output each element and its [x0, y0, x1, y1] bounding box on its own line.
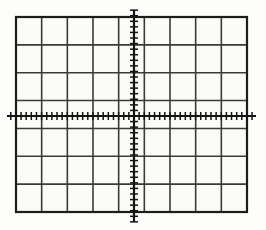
- grid-cell: [221, 184, 247, 212]
- coordinate-grid-canvas: [0, 0, 266, 230]
- grid-cell: [170, 184, 196, 212]
- grid-cell: [170, 73, 196, 101]
- grid-cell: [42, 45, 68, 73]
- grid-cell: [221, 156, 247, 184]
- grid-cell: [16, 128, 42, 156]
- grid-cell: [67, 45, 93, 73]
- grid-cell: [170, 45, 196, 73]
- grid-cell: [170, 101, 196, 129]
- grid-cell: [67, 184, 93, 212]
- grid-cell: [196, 184, 222, 212]
- grid-cell: [42, 156, 68, 184]
- grid-cell: [221, 128, 247, 156]
- grid-cell: [196, 17, 222, 45]
- grid-cell: [144, 17, 170, 45]
- grid-cell: [170, 128, 196, 156]
- grid-cell: [170, 17, 196, 45]
- grid-cell: [16, 45, 42, 73]
- grid-cell: [144, 45, 170, 73]
- grid-cell: [144, 184, 170, 212]
- grid-cell: [93, 101, 119, 129]
- grid-cell: [196, 128, 222, 156]
- grid-cell: [42, 73, 68, 101]
- grid-cell: [196, 73, 222, 101]
- grid-cell: [196, 45, 222, 73]
- grid-cell: [42, 128, 68, 156]
- grid-cell: [42, 17, 68, 45]
- grid-cell: [221, 45, 247, 73]
- grid-cell: [67, 128, 93, 156]
- grid-cell: [93, 17, 119, 45]
- grid-cell: [16, 184, 42, 212]
- grid-cell: [170, 156, 196, 184]
- screenshot-root: [0, 0, 266, 230]
- grid-cell: [93, 184, 119, 212]
- grid-cell: [16, 156, 42, 184]
- grid-cell: [144, 73, 170, 101]
- grid-cell: [196, 156, 222, 184]
- grid-cell: [42, 101, 68, 129]
- grid-cell: [221, 73, 247, 101]
- grid-cell: [16, 73, 42, 101]
- grid-cell: [221, 17, 247, 45]
- grid-cell: [93, 45, 119, 73]
- grid-cell: [67, 73, 93, 101]
- grid-cell: [144, 128, 170, 156]
- grid-cell: [67, 101, 93, 129]
- coordinate-grid-figure: [0, 0, 266, 230]
- grid-cell: [16, 17, 42, 45]
- grid-cell: [67, 17, 93, 45]
- grid-cell: [42, 184, 68, 212]
- grid-cell: [93, 156, 119, 184]
- grid-cell: [67, 156, 93, 184]
- grid-cell: [16, 101, 42, 129]
- grid-cell: [144, 101, 170, 129]
- grid-cell: [196, 101, 222, 129]
- grid-cell: [144, 156, 170, 184]
- grid-cell: [221, 101, 247, 129]
- grid-cell: [93, 128, 119, 156]
- grid-cell: [93, 73, 119, 101]
